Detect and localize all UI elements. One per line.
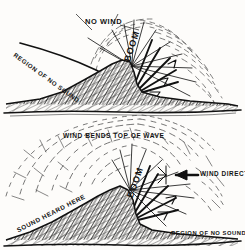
label-wind-direction: WIND DIRECTION [200,171,245,177]
diagram-canvas [0,0,245,250]
label-region-of-no-sound-bottom: REGION OF NO SOUND [171,231,245,237]
ground-line-top-shadow [10,113,236,116]
label-no-wind: NO WIND [85,18,122,26]
wind-source-star [157,166,166,184]
label-wind-bends-top-of-wave: WIND BENDS TOP OF WAVE [63,133,165,140]
wind-direction-arrow [176,170,198,180]
figure-sheet: NO WIND BOOM REGION OF NO SOUND WIND BEN… [0,0,245,250]
